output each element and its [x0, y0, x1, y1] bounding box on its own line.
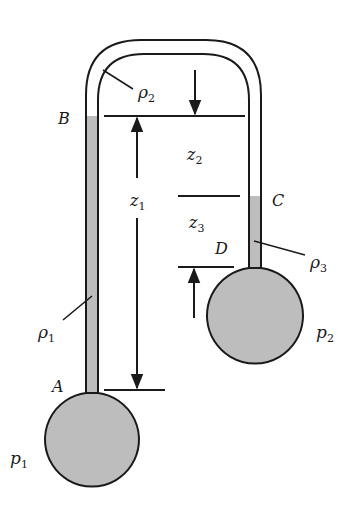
label-c: C: [272, 191, 284, 210]
label-z3: z3: [188, 213, 204, 235]
fluid-rho3: [250, 196, 261, 270]
label-d: D: [214, 239, 228, 258]
bulb-p2: [207, 268, 303, 364]
leader-rho2: [103, 70, 133, 89]
fluid-rho1: [86, 116, 98, 396]
bulb-p1: [45, 393, 139, 487]
label-p2: p2: [316, 322, 334, 345]
label-p1: p1: [10, 448, 28, 471]
label-rho1: ρ1: [37, 322, 55, 345]
manometer-diagram: B C D A ρ2 ρ3 ρ1 p1 p2 z1 z2 z3: [0, 0, 354, 520]
label-a: A: [50, 377, 64, 396]
label-z1: z1: [129, 191, 145, 213]
label-rho3: ρ3: [309, 252, 327, 275]
label-rho2: ρ2: [137, 82, 155, 105]
label-b: B: [57, 109, 70, 128]
label-z2: z2: [186, 145, 202, 167]
